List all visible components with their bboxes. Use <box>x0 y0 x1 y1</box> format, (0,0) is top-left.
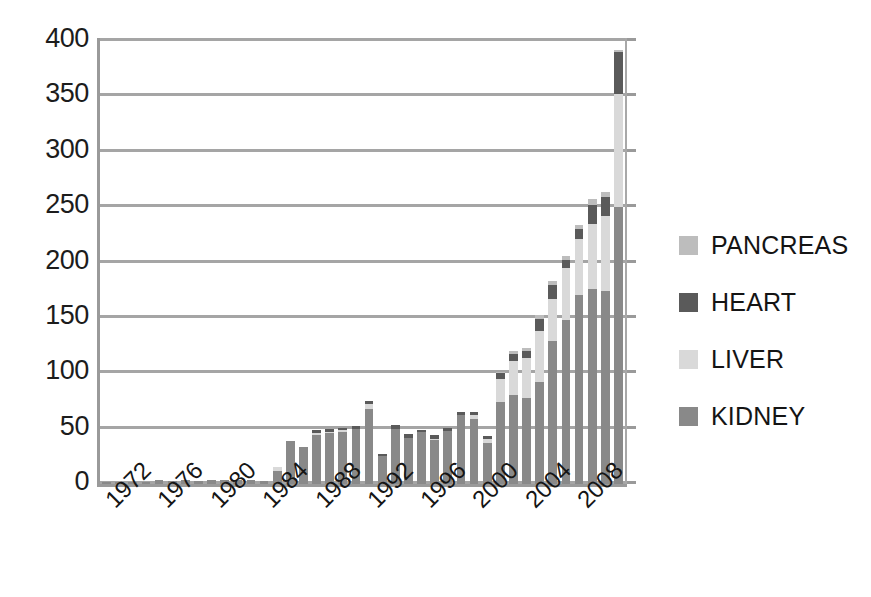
bar-slot <box>205 41 218 484</box>
bar-segment-kidney <box>614 207 623 484</box>
y-axis-tick-label: 50 <box>11 413 89 440</box>
bar-segment-liver <box>548 299 557 341</box>
bar-segment-kidney <box>562 320 571 484</box>
y-axis-tick-mark <box>627 370 636 373</box>
legend-label: LIVER <box>711 347 784 372</box>
legend-swatch-icon <box>679 407 698 426</box>
bar-segment-kidney <box>522 398 531 484</box>
bar-segment-heart <box>588 205 597 224</box>
bar-stack[interactable] <box>614 50 623 484</box>
bar-slot <box>153 41 166 484</box>
legend-label: KIDNEY <box>711 404 805 429</box>
bar-slot <box>258 41 271 484</box>
y-axis-tick-mark <box>627 38 636 41</box>
y-axis-tick-label: 150 <box>11 302 89 329</box>
bar-segment-liver <box>562 268 571 320</box>
bar-slot <box>323 41 336 484</box>
bar-slot <box>402 41 415 484</box>
bar-slot <box>573 41 586 484</box>
bar-slot <box>533 41 546 484</box>
y-axis-tick-mark <box>627 260 636 263</box>
bar-segment-heart <box>601 197 610 216</box>
bar-slot <box>126 41 139 484</box>
bar-slot <box>100 41 113 484</box>
y-axis-tick-label: 0 <box>11 468 89 495</box>
y-axis-tick-mark <box>627 93 636 96</box>
bar-segment-kidney <box>365 409 374 484</box>
bar-stack[interactable] <box>312 430 321 484</box>
bar-slot <box>507 41 520 484</box>
bar-slot <box>559 41 572 484</box>
legend-swatch-icon <box>679 236 698 255</box>
legend-item-heart[interactable]: HEART <box>679 274 869 331</box>
bar-stack[interactable] <box>365 401 374 484</box>
y-axis-tick-mark <box>627 481 636 484</box>
bar-segment-kidney <box>588 289 597 484</box>
bar-slot <box>415 41 428 484</box>
bar-segment-kidney <box>417 432 426 484</box>
bar-slot <box>284 41 297 484</box>
bar-slot <box>271 41 284 484</box>
y-axis-tick-label: 200 <box>11 247 89 274</box>
bar-stack[interactable] <box>522 348 531 484</box>
bar-stack[interactable] <box>470 412 479 484</box>
bar-segment-liver <box>575 239 584 294</box>
bar-segment-heart <box>614 52 623 94</box>
bar-stack[interactable] <box>548 281 557 484</box>
bar-stack[interactable] <box>535 315 544 484</box>
bar-slot <box>441 41 454 484</box>
legend-swatch-icon <box>679 350 698 369</box>
y-axis-tick-mark <box>627 204 636 207</box>
bar-slot <box>376 41 389 484</box>
bar-stack[interactable] <box>562 256 571 484</box>
legend-swatch-icon <box>679 293 698 312</box>
bar-slot <box>218 41 231 484</box>
y-axis-tick-label: 350 <box>11 80 89 107</box>
bar-stack[interactable] <box>588 199 597 484</box>
legend-item-liver[interactable]: LIVER <box>679 331 869 388</box>
y-axis-tick-mark <box>627 315 636 318</box>
legend-item-pancreas[interactable]: PANCREAS <box>679 217 869 274</box>
bar-segment-heart <box>575 229 584 239</box>
bar-slot <box>520 41 533 484</box>
x-axis-tick-labels: 1972197619801984198819921996200020042008 <box>97 487 627 597</box>
bar-stack[interactable] <box>575 225 584 484</box>
bar-segment-heart <box>548 285 557 299</box>
bar-segment-liver <box>588 224 597 289</box>
bar-slot <box>546 41 559 484</box>
bar-slot <box>336 41 349 484</box>
bar-segment-liver <box>535 331 544 382</box>
bar-stack[interactable] <box>417 430 426 484</box>
bar-segment-kidney <box>575 295 584 484</box>
bar-slot <box>113 41 126 484</box>
bar-segment-liver <box>601 216 610 291</box>
bar-segment-kidney <box>312 435 321 484</box>
stacked-bar-chart: 400350300250200150100500 197219761980198… <box>0 0 871 597</box>
bars-layer <box>100 41 625 484</box>
bar-slot <box>166 41 179 484</box>
bar-slot <box>586 41 599 484</box>
y-axis-line-right <box>625 38 627 487</box>
legend-label: HEART <box>711 290 796 315</box>
bar-stack[interactable] <box>601 192 610 484</box>
bar-slot <box>179 41 192 484</box>
bar-segment-liver <box>496 379 505 402</box>
y-axis-tick-label: 250 <box>11 191 89 218</box>
bar-slot <box>297 41 310 484</box>
y-axis-tick-mark <box>627 426 636 429</box>
bar-slot <box>244 41 257 484</box>
bar-segment-kidney <box>470 419 479 484</box>
bar-segment-liver <box>614 94 623 207</box>
bar-segment-liver <box>509 361 518 395</box>
legend-label: PANCREAS <box>711 233 848 258</box>
bar-slot <box>389 41 402 484</box>
bar-slot <box>310 41 323 484</box>
bar-slot <box>349 41 362 484</box>
bar-segment-heart <box>535 319 544 331</box>
bar-slot <box>139 41 152 484</box>
bar-segment-liver <box>522 358 531 398</box>
y-axis-tick-label: 400 <box>11 25 89 52</box>
bar-slot <box>494 41 507 484</box>
legend-item-kidney[interactable]: KIDNEY <box>679 388 869 445</box>
y-axis-tick-label: 300 <box>11 136 89 163</box>
